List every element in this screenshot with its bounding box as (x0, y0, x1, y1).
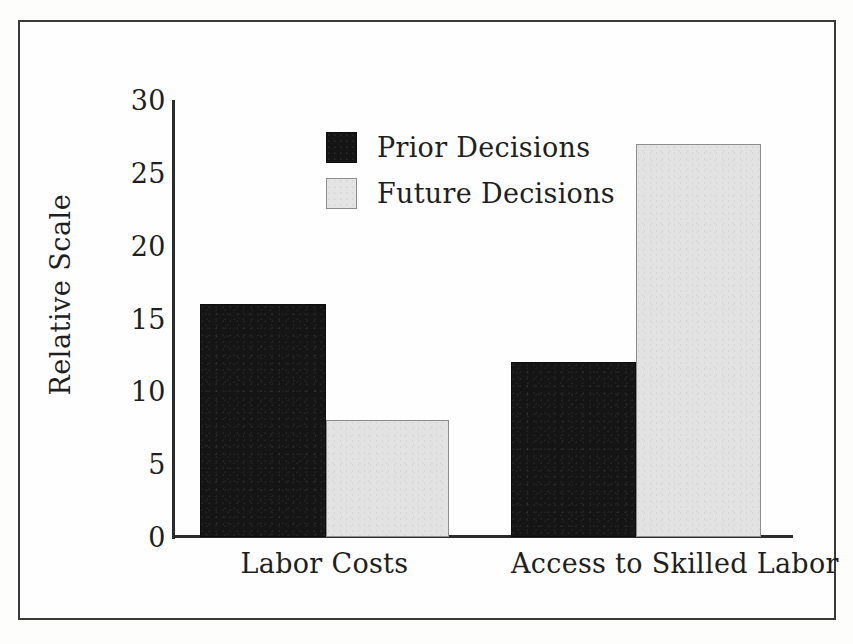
bar (326, 420, 449, 537)
x-axis-category-label: Access to Skilled Labor (511, 548, 761, 579)
plot-area: Relative Scale 302520151050 Labor CostsA… (0, 0, 853, 644)
legend-item-prior-decisions[interactable]: Prior Decisions (326, 130, 615, 164)
y-axis-line (172, 100, 175, 539)
legend: Prior Decisions Future Decisions (326, 130, 615, 222)
x-axis-category-label: Labor Costs (200, 548, 449, 579)
legend-label: Prior Decisions (377, 132, 590, 163)
y-axis-tick-label: 30 (110, 87, 166, 114)
legend-item-future-decisions[interactable]: Future Decisions (326, 176, 615, 210)
bar (511, 362, 636, 537)
y-axis-tick-label: 20 (110, 233, 166, 260)
y-axis-tick-label: 0 (110, 524, 166, 551)
legend-swatch-icon (326, 178, 357, 209)
y-axis-title: Relative Scale (45, 216, 76, 396)
y-axis-tick-label: 15 (110, 306, 166, 333)
y-axis-tick-label: 5 (110, 451, 166, 478)
y-axis-tick-label: 10 (110, 378, 166, 405)
bar (200, 304, 326, 537)
bar (636, 144, 761, 537)
figure: Relative Scale 302520151050 Labor CostsA… (0, 0, 853, 644)
legend-swatch-icon (326, 132, 357, 163)
y-axis-tick-label: 25 (110, 160, 166, 187)
legend-label: Future Decisions (377, 178, 615, 209)
